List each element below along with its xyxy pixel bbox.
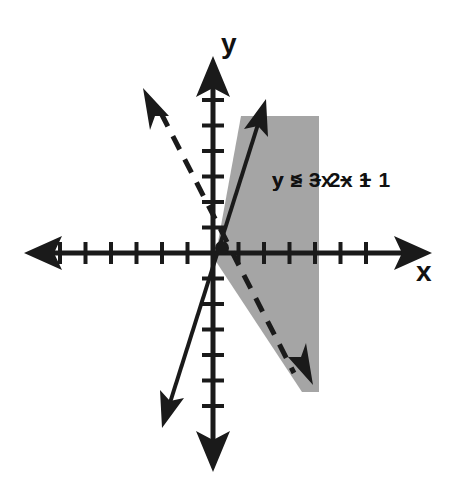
filled-dot [215,241,229,255]
inequality-label-2: y > − 2x + 1 [272,167,391,194]
inequality-graph-figure: y ≤ 3x − 1 y > − 2x + 1 y x [0,0,453,504]
coordinate-plane-svg [0,0,453,504]
intersection-point-marker [215,241,229,255]
x-axis-label: x [416,258,432,286]
y-axis-label: y [221,30,237,58]
